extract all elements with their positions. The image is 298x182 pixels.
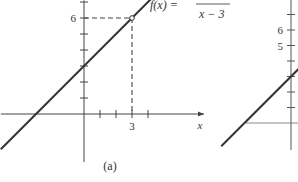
panel-a: 36xf(x) =x − 3(a) (1, 0, 230, 173)
panel-caption: (a) (103, 159, 116, 173)
function-label: f(x) = (150, 0, 178, 12)
y-tick-label: 6 (278, 24, 284, 36)
y-tick-label: 6 (71, 12, 77, 24)
function-denominator: x − 3 (198, 7, 224, 21)
x-tick-label: 3 (129, 120, 135, 132)
x-axis-label: x (197, 119, 203, 131)
hole-point (130, 16, 135, 21)
x-axis-arrow (198, 112, 204, 117)
y-tick-label: 5 (278, 40, 284, 52)
function-line (221, 67, 298, 146)
chart: 36xf(x) =x − 3(a) 65 (0, 0, 298, 182)
panel-b: 65 (221, 0, 298, 150)
